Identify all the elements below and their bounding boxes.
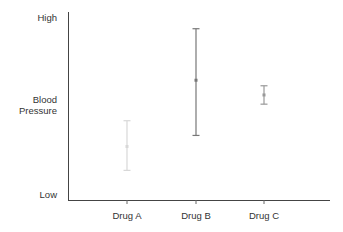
error-bar-drug-c (261, 86, 268, 104)
error-bars (124, 29, 268, 171)
y-label-blood: Blood (10, 94, 57, 105)
x-label-drug-a: Drug A (97, 210, 157, 221)
y-label-low: Low (20, 189, 57, 200)
x-label-drug-b: Drug B (166, 210, 226, 221)
error-bar-drug-a (124, 121, 131, 171)
y-label-pressure: Pressure (5, 105, 57, 116)
blood-pressure-chart: High Blood Pressure Low Drug A Drug B Dr… (0, 0, 343, 232)
y-label-high: High (20, 12, 57, 23)
error-bar-drug-b (193, 29, 200, 136)
x-label-drug-c: Drug C (234, 210, 294, 221)
